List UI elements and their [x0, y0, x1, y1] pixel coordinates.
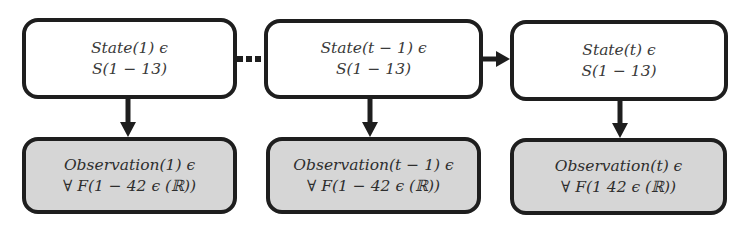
- state-t-set: S(1 − 13): [581, 61, 656, 82]
- observation-1-node: Observation(1) ϵ ∀ F(1 − 42 ϵ (ℝ)): [22, 137, 237, 214]
- state-t-label: State(t) ϵ: [582, 40, 655, 61]
- dotted-connector: [237, 56, 261, 62]
- observation-t-node: Observation(t) ϵ ∀ F(1 42 ϵ (ℝ)): [510, 138, 727, 215]
- state-t-node: State(t) ϵ S(1 − 13): [510, 20, 728, 101]
- state-t-minus-1-set: S(1 − 13): [336, 59, 411, 80]
- observation-t-set: ∀ F(1 42 ϵ (ℝ)): [561, 177, 676, 198]
- observation-1-label: Observation(1) ϵ: [64, 155, 195, 176]
- observation-t-minus-1-label: Observation(t − 1) ϵ: [293, 155, 453, 176]
- observation-t-label: Observation(t) ϵ: [555, 156, 683, 177]
- state-t-minus-1-label: State(t − 1) ϵ: [320, 38, 426, 59]
- state-1-set: S(1 − 13): [92, 59, 167, 80]
- observation-t-minus-1-set: ∀ F(1 − 42 ϵ (ℝ)): [307, 176, 440, 197]
- transition-arrow: [482, 51, 510, 67]
- state-1-node: State(1) ϵ S(1 − 13): [22, 18, 237, 99]
- state-1-label: State(1) ϵ: [91, 38, 168, 59]
- state-t-minus-1-node: State(t − 1) ϵ S(1 − 13): [264, 19, 483, 99]
- observation-1-set: ∀ F(1 − 42 ϵ (ℝ)): [63, 176, 196, 197]
- emission-arrow-3: [612, 100, 628, 138]
- emission-arrow-1: [120, 98, 136, 137]
- emission-arrow-2: [362, 98, 378, 137]
- observation-t-minus-1-node: Observation(t − 1) ϵ ∀ F(1 − 42 ϵ (ℝ)): [266, 137, 481, 214]
